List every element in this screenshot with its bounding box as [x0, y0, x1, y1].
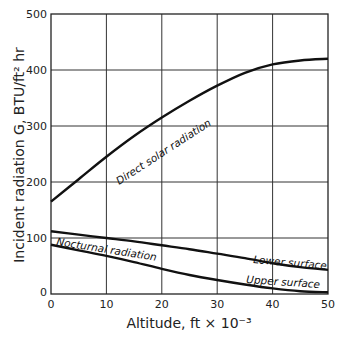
y-tick-label: 100	[26, 232, 47, 245]
y-tick-label: 500	[26, 8, 47, 21]
x-tick-label: 50	[321, 298, 335, 311]
x-tick-label: 40	[266, 298, 280, 311]
y-axis-label: Incident radiation G, BTU/ft² hr	[11, 47, 27, 263]
y-tick-label: 300	[26, 120, 47, 133]
y-tick-labels: 0100200300400500	[26, 8, 47, 299]
x-tick-labels: 01020304050	[48, 298, 336, 311]
annotation-upper-surface: Upper surface	[246, 273, 321, 290]
radiation-chart: 0100200300400500 01020304050 Direct sola…	[0, 0, 339, 338]
y-tick-label: 200	[26, 176, 47, 189]
x-tick-label: 10	[99, 298, 113, 311]
annotation-lower-surface: Lower surface	[253, 253, 328, 271]
y-tick-label: 400	[26, 64, 47, 77]
x-axis-label: Altitude, ft × 10⁻³	[126, 315, 251, 331]
x-tick-label: 0	[48, 298, 55, 311]
y-tick-label: 0	[40, 286, 47, 299]
annotation-direct-solar: Direct solar radiation	[114, 116, 213, 186]
x-tick-label: 30	[210, 298, 224, 311]
x-tick-label: 20	[155, 298, 169, 311]
